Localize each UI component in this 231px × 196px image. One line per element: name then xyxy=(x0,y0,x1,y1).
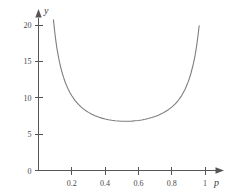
y-tick-label: 15 xyxy=(24,57,32,66)
y-axis-label: y xyxy=(43,5,49,16)
y-axis-arrowhead xyxy=(35,9,41,18)
y-tick-label: 5 xyxy=(28,130,32,139)
x-tick-label: 1 xyxy=(203,179,207,188)
y-tick-label: 10 xyxy=(24,94,32,103)
data-curve xyxy=(53,20,199,121)
x-tick-label: 0.6 xyxy=(133,179,143,188)
x-axis-label: p xyxy=(213,177,219,188)
chart-figure: y p 05101520 0.20.40.60.81 xyxy=(0,0,231,196)
x-axis-arrowhead xyxy=(216,167,225,173)
y-tick-label: 20 xyxy=(24,21,32,30)
y-axis-group: y xyxy=(35,5,49,171)
x-tick-group: 0.20.40.60.81 xyxy=(67,167,207,188)
x-tick-label: 0.4 xyxy=(100,179,110,188)
y-tick-label: 0 xyxy=(28,167,32,176)
x-tick-label: 0.2 xyxy=(67,179,77,188)
y-tick-group: 05101520 xyxy=(24,21,43,176)
x-tick-label: 0.8 xyxy=(167,179,177,188)
plot-canvas: y p 05101520 0.20.40.60.81 xyxy=(0,0,231,196)
